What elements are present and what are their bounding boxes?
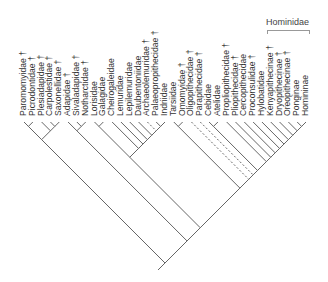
branch (275, 148, 279, 152)
branch (77, 131, 187, 241)
taxon-label: Homininae (301, 75, 310, 116)
branch (271, 122, 289, 140)
branch (262, 122, 284, 144)
cladogram (0, 0, 328, 282)
branch (42, 122, 51, 131)
branch (249, 175, 253, 179)
branch (156, 126, 160, 130)
branch (293, 131, 297, 135)
branch (130, 148, 139, 157)
branch (213, 126, 257, 170)
branch (161, 122, 165, 126)
branch (121, 122, 143, 144)
branch (271, 153, 275, 157)
branch (42, 140, 165, 263)
branch (24, 122, 28, 126)
branch (253, 170, 257, 174)
branch (165, 241, 187, 263)
branch (95, 122, 99, 126)
branch (227, 122, 267, 162)
branch (302, 122, 306, 126)
dashed-branch (147, 122, 156, 131)
branch (77, 122, 81, 126)
branch (156, 122, 160, 126)
branch (28, 126, 41, 139)
branch (99, 126, 130, 157)
branch (50, 122, 54, 126)
branch (50, 126, 54, 130)
dashed-branch (200, 122, 253, 175)
branch (288, 122, 297, 131)
hominidae-label: Hominidae (266, 17, 309, 27)
branch (280, 144, 284, 148)
hominidae-bracket (267, 30, 310, 34)
dashed-branch (191, 122, 248, 179)
branch (244, 122, 275, 153)
branch (297, 126, 301, 130)
branch (187, 228, 200, 241)
branch (68, 122, 77, 131)
branch (130, 122, 148, 140)
branch (178, 122, 182, 126)
branch (77, 126, 81, 130)
branch (200, 188, 240, 228)
branch (147, 135, 151, 139)
branch (158, 263, 165, 270)
branch (152, 131, 156, 135)
taxon-label: Notharctidae † (81, 60, 90, 116)
branch (99, 122, 103, 126)
branch (143, 140, 147, 144)
branch (240, 179, 249, 188)
branch (236, 122, 271, 157)
branch (297, 122, 301, 126)
branch (130, 157, 201, 228)
taxon-label: Propliopithecidae † (222, 43, 231, 116)
branch (213, 122, 217, 126)
branch (174, 122, 178, 126)
branch (28, 122, 32, 126)
branch (139, 144, 143, 148)
branch (258, 162, 267, 171)
branch (55, 122, 59, 126)
branch (209, 122, 213, 126)
branch (178, 126, 240, 188)
branch (81, 122, 85, 126)
branch (288, 135, 292, 139)
branch (42, 131, 51, 140)
branch (284, 140, 288, 144)
branch (266, 157, 270, 161)
